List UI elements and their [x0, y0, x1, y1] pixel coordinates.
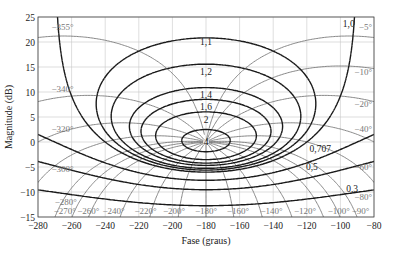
n-contour-label: −90°: [352, 206, 370, 216]
x-tick-label: −80: [367, 221, 382, 231]
y-tick-label: 15: [26, 63, 36, 73]
n-contour-label: −10°: [354, 67, 372, 77]
n-contour-label: −340°: [51, 84, 74, 94]
nichols-chart: −280−260−240−220−200−180−160−140−120−100…: [0, 0, 393, 260]
n-contour-label: −300°: [51, 164, 74, 174]
n-contour-label: −240°: [103, 206, 126, 216]
m-contour-label: 1,6: [200, 102, 212, 112]
x-tick-label: −200: [163, 221, 183, 231]
n-contour-label: −270°: [54, 206, 77, 216]
n-contour-label: −355°: [51, 22, 74, 32]
y-tick-label: −5: [25, 163, 35, 173]
m-contour-label: 1,1: [200, 37, 212, 47]
x-tick-label: −120: [297, 221, 317, 231]
x-axis-label: Fase (graus): [181, 235, 230, 247]
n-contour-label: −160°: [227, 206, 250, 216]
m-contour-label: 1,0: [343, 19, 355, 29]
m-contour-label: 0,707: [310, 144, 332, 154]
m-contour-label: 0,5: [306, 162, 318, 172]
n-contour-label: −140°: [260, 206, 283, 216]
contour-labels: 1,01,11,21,41,6240,7070,50,3−5°−10°−20°−…: [51, 19, 372, 216]
n-contour-label: −20°: [354, 99, 372, 109]
x-tick-label: −220: [129, 221, 149, 231]
n-contour-label: −100°: [328, 206, 351, 216]
n-contour-label: −40°: [354, 124, 372, 134]
m-contour-label: 1,2: [200, 67, 212, 77]
m-contour-label: 2: [204, 115, 209, 125]
x-tick-label: −180: [196, 221, 216, 231]
x-tick-label: −240: [95, 221, 115, 231]
m-contour-label: 4: [204, 137, 209, 147]
n-contour-label: −220°: [134, 206, 157, 216]
n-contour-label: −80°: [354, 192, 372, 202]
y-tick-label: 5: [30, 113, 35, 123]
x-tick-label: −160: [230, 221, 250, 231]
y-tick-label: 10: [26, 88, 36, 98]
y-tick-label: −15: [20, 213, 35, 223]
n-contour-label: −60°: [354, 162, 372, 172]
y-axis-label: Magnitude (dB): [3, 85, 15, 149]
x-tick-label: −260: [62, 221, 82, 231]
n-contour-label: −260°: [77, 206, 100, 216]
y-tick-label: 20: [26, 38, 36, 48]
n-contour: [21, 123, 203, 153]
y-tick-label: 0: [30, 138, 35, 148]
x-tick-label: −280: [28, 221, 48, 231]
m-contour-label: 1,4: [200, 90, 212, 100]
n-contour-label: −180°: [195, 206, 218, 216]
x-tick-label: −100: [331, 221, 351, 231]
y-tick-label: −10: [20, 188, 35, 198]
x-tick-label: −140: [263, 221, 283, 231]
n-contour-label: −320°: [51, 124, 74, 134]
n-contour-label: −5°: [359, 22, 373, 32]
y-tick-label: 25: [26, 13, 36, 23]
n-contour-label: −200°: [163, 206, 186, 216]
n-contour: [21, 36, 204, 135]
n-contour-label: −120°: [294, 206, 317, 216]
n-contour-label: −280°: [55, 197, 78, 207]
